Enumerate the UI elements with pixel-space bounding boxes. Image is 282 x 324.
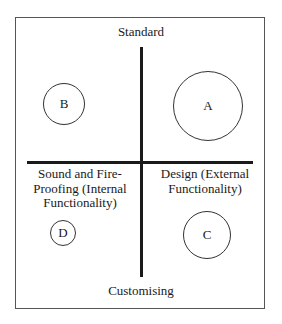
circle-b-label: B <box>60 96 69 112</box>
circle-c: C <box>183 211 231 259</box>
circle-a: A <box>173 71 243 141</box>
axis-label-standard: Standard <box>91 24 191 40</box>
quadrant-label-line: Proofing (Internal <box>20 182 140 197</box>
quadrant-label-bottom-left: Sound and Fire- Proofing (Internal Funct… <box>20 167 140 211</box>
horizontal-axis-line <box>27 161 253 164</box>
circle-a-label: A <box>203 98 212 114</box>
quadrant-label-line: Design (External <box>145 167 265 182</box>
circle-d-label: D <box>58 225 67 241</box>
circle-d: D <box>50 220 76 246</box>
quadrant-label-line: Functionality) <box>145 182 265 197</box>
circle-b: B <box>43 83 85 125</box>
quadrant-label-bottom-right: Design (External Functionality) <box>145 167 265 196</box>
circle-c-label: C <box>203 227 212 243</box>
quadrant-label-line: Functionality) <box>20 196 140 211</box>
axis-label-customising: Customising <box>91 283 191 299</box>
quadrant-label-line: Sound and Fire- <box>20 167 140 182</box>
